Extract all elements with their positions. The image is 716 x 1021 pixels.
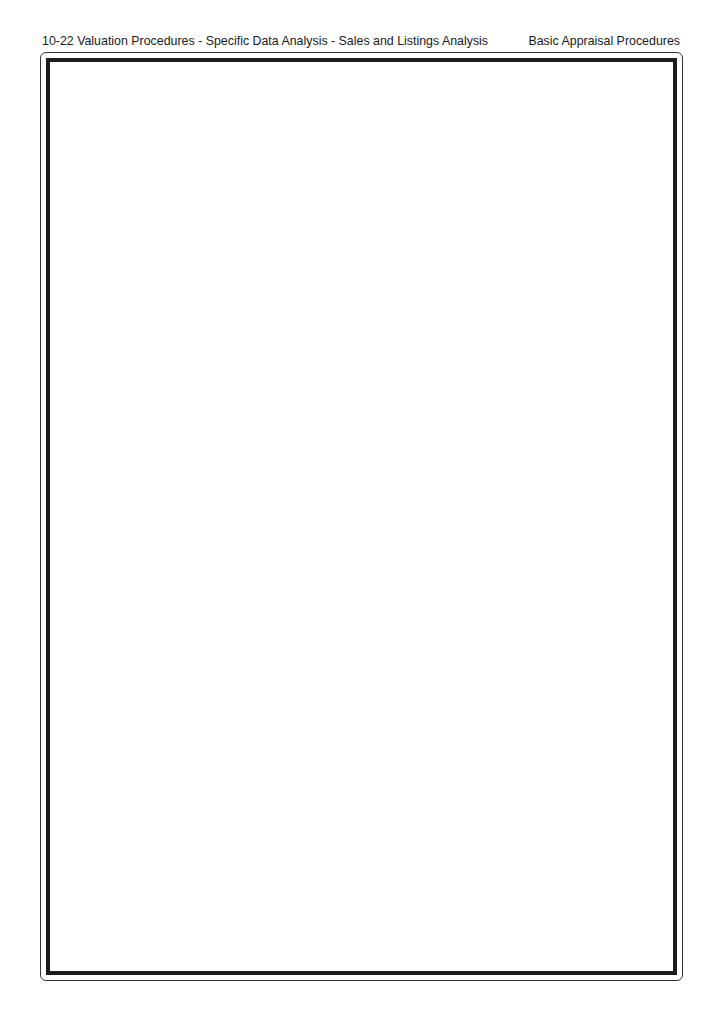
page-header: 10-22 Valuation Procedures - Specific Da… <box>42 32 680 50</box>
content-frame <box>46 58 677 975</box>
book-title: Basic Appraisal Procedures <box>528 32 680 50</box>
section-title: 10-22 Valuation Procedures - Specific Da… <box>42 32 488 50</box>
content-frame-outer-border <box>40 52 683 981</box>
